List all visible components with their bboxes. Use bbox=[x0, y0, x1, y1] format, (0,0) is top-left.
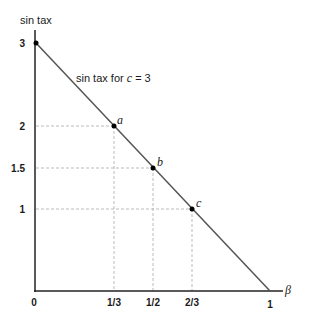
point-b-label: b bbox=[157, 155, 163, 169]
x-tick-1-2: 1/2 bbox=[146, 297, 160, 308]
chart: sin tax β sin tax for c = 3 a b c 3 2 1.… bbox=[0, 0, 309, 321]
y-tick-1-5: 1.5 bbox=[11, 163, 25, 174]
point-c bbox=[190, 207, 195, 212]
y-tick-1: 1 bbox=[19, 204, 25, 215]
point-c-label: c bbox=[196, 196, 202, 210]
y-tick-3: 3 bbox=[19, 38, 25, 49]
point-b bbox=[151, 166, 156, 171]
line-label: sin tax for c = 3 bbox=[76, 71, 151, 85]
guide-lines bbox=[36, 126, 192, 291]
x-tick-0: 0 bbox=[31, 297, 37, 308]
x-tick-1-3: 1/3 bbox=[107, 297, 121, 308]
y-axis-label: sin tax bbox=[20, 14, 52, 26]
point-a-label: a bbox=[117, 113, 123, 127]
x-axis-label: β bbox=[284, 283, 291, 297]
x-tick-2-3: 2/3 bbox=[185, 297, 199, 308]
point-a bbox=[112, 124, 117, 129]
point-intercept bbox=[34, 41, 39, 46]
x-tick-1: 1 bbox=[267, 299, 273, 310]
y-tick-2: 2 bbox=[19, 121, 25, 132]
